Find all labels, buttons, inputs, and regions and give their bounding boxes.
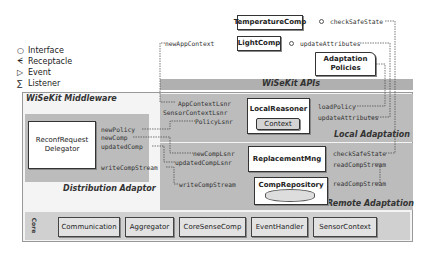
light-comp[interactable]: LightComp bbox=[237, 36, 281, 51]
port-policylsnr: PolicyLsnr bbox=[195, 118, 233, 126]
receptacle-icon: ᗕ bbox=[17, 56, 28, 67]
apis-title: WiSeKit APIs bbox=[262, 79, 320, 88]
legend: ○Interface ᗕReceptacle ▷Event ∑Listener bbox=[17, 45, 72, 89]
replacement-mng[interactable]: ReplacementMng bbox=[248, 146, 326, 172]
database-icon bbox=[265, 189, 315, 202]
context-box[interactable]: Context bbox=[256, 118, 300, 130]
core-label: Core bbox=[31, 218, 38, 234]
event-icon: ▷ bbox=[17, 67, 28, 78]
port-readcompstream-mng: readCompStream bbox=[333, 161, 386, 169]
core-aggregator[interactable]: Aggregator bbox=[125, 217, 174, 237]
port-appcontextlsnr: AppContextLsnr bbox=[178, 100, 231, 108]
port-newcomp: newComp bbox=[101, 134, 128, 142]
temperature-comp[interactable]: TemperatureComp bbox=[237, 15, 303, 30]
legend-receptacle: ᗕReceptacle bbox=[17, 56, 72, 67]
remote-title: Remote Adaptation bbox=[327, 199, 414, 208]
interface-icon bbox=[289, 41, 294, 46]
port-loadpolicy: loadPolicy bbox=[318, 103, 356, 111]
port-newcomplsnr: newCompLsnr bbox=[193, 150, 235, 158]
legend-event: ▷Event bbox=[17, 67, 72, 78]
core-eventhandler[interactable]: EventHandler bbox=[251, 217, 308, 237]
port-writecompstream-repo: writeCompStream bbox=[179, 181, 236, 189]
port-updateattributes-top: updateAttributes bbox=[300, 40, 361, 48]
interface-icon bbox=[319, 19, 324, 24]
listener-icon: ∑ bbox=[17, 78, 28, 89]
legend-listener: ∑Listener bbox=[17, 78, 72, 89]
distribution-title: Distribution Adaptor bbox=[63, 184, 156, 193]
port-writecompstream: writeCompStream bbox=[101, 164, 158, 172]
reconf-request-delegator[interactable]: ReconfRequest Delegator bbox=[28, 121, 96, 169]
port-updatedcomp: updatedComp bbox=[101, 143, 143, 151]
port-newpolicy: newPolicy bbox=[101, 126, 135, 134]
core-sensorcontext[interactable]: SensorContext bbox=[313, 217, 377, 237]
port-checksafestate-top: checkSafeState bbox=[330, 18, 383, 26]
port-updateattributes-local: updateAttributes bbox=[318, 114, 379, 122]
adaptation-policies[interactable]: Adaptation Policies bbox=[315, 52, 376, 76]
core-coresensecomp[interactable]: CoreSenseComp bbox=[179, 217, 246, 237]
port-updatedcomplsnr: updatedCompLsnr bbox=[175, 159, 232, 167]
middleware-title: WiSeKit Middleware bbox=[26, 94, 117, 103]
port-newappcontext: newAppContext bbox=[165, 40, 214, 48]
port-readcompstream-repo: readCompStream bbox=[333, 180, 386, 188]
port-checksafestate-remote: checkSafeState bbox=[333, 150, 386, 158]
local-title: Local Adaptation bbox=[334, 130, 410, 139]
port-sensorcontextlsnr: SensorContextLsnr bbox=[163, 109, 227, 117]
interface-icon: ○ bbox=[17, 45, 28, 56]
legend-interface: ○Interface bbox=[17, 45, 72, 56]
wisekit-apis-bar: WiSeKit APIs bbox=[160, 79, 413, 90]
core-communication[interactable]: Communication bbox=[58, 217, 120, 237]
